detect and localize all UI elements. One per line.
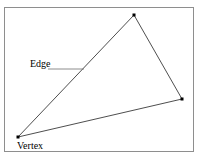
edge-label: Edge [30, 58, 51, 69]
figure-border-box [4, 7, 194, 152]
vertex-label: Vertex [17, 140, 43, 151]
clipped-caption-remnant [0, 0, 201, 2]
figure-root: Edge Vertex [0, 0, 201, 162]
